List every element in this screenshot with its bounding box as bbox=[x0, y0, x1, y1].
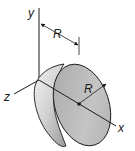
radius-label: R bbox=[84, 82, 93, 96]
offset-dimension-label: R bbox=[53, 27, 62, 41]
x-axis-label: x bbox=[117, 121, 125, 135]
hemisphere-diagram: y R z x R bbox=[0, 0, 135, 151]
z-axis-label: z bbox=[3, 90, 10, 104]
y-axis-label: y bbox=[27, 6, 35, 20]
